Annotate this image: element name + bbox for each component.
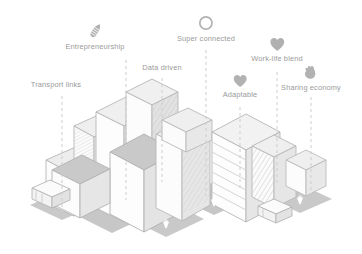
- isometric-city-illustration: [0, 0, 362, 254]
- illustration-canvas: Transport links Entrepreneurship Data dr…: [0, 0, 362, 254]
- building: [286, 150, 326, 196]
- building-cluster-left: [46, 79, 212, 232]
